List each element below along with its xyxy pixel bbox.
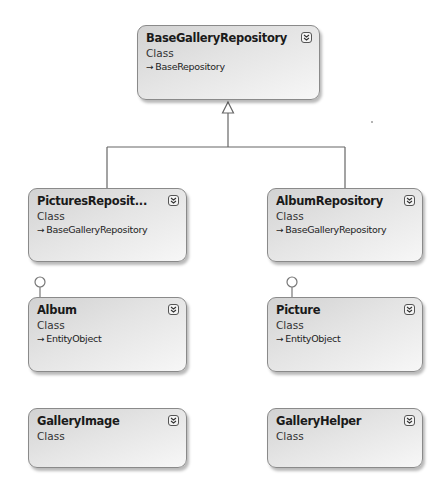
base-arrow-icon: → — [146, 62, 153, 72]
inheritance-connector — [107, 118, 345, 188]
expand-button[interactable] — [301, 32, 312, 43]
class-name: Picture — [276, 303, 414, 318]
class-name: Album — [37, 303, 178, 318]
class-base: →BaseGalleryRepository — [37, 223, 178, 237]
expand-button[interactable] — [168, 415, 179, 426]
class-box-gallery-image[interactable]: GalleryImage Class — [28, 408, 187, 468]
interface-lollipop-album — [35, 277, 45, 297]
class-base: →BaseGalleryRepository — [276, 223, 414, 237]
class-box-picture[interactable]: Picture Class →EntityObject — [267, 297, 423, 372]
class-name: GalleryImage — [37, 414, 178, 429]
expand-button[interactable] — [404, 304, 415, 315]
class-box-album-repository[interactable]: AlbumRepository Class →BaseGalleryReposi… — [267, 188, 423, 262]
expand-button[interactable] — [404, 415, 415, 426]
class-box-gallery-helper[interactable]: GalleryHelper Class — [267, 408, 423, 468]
class-kind: Class — [276, 429, 414, 443]
class-name: PicturesReposit... — [37, 194, 178, 209]
class-kind: Class — [37, 318, 178, 332]
inheritance-arrowhead-icon — [223, 102, 234, 113]
expand-button[interactable] — [168, 195, 179, 206]
class-base: →EntityObject — [276, 332, 414, 346]
class-base-name: EntityObject — [285, 333, 340, 344]
double-chevron-down-icon — [170, 306, 177, 313]
base-arrow-icon: → — [276, 225, 283, 235]
double-chevron-down-icon — [406, 197, 413, 204]
double-chevron-down-icon — [406, 417, 413, 424]
class-box-pictures-repository[interactable]: PicturesReposit... Class →BaseGalleryRep… — [28, 188, 187, 262]
class-kind: Class — [276, 209, 414, 223]
class-base: →EntityObject — [37, 332, 178, 346]
class-base-name: EntityObject — [46, 333, 101, 344]
double-chevron-down-icon — [170, 417, 177, 424]
expand-button[interactable] — [404, 195, 415, 206]
base-arrow-icon: → — [37, 225, 44, 235]
class-base-name: BaseGalleryRepository — [285, 224, 386, 235]
class-base-name: BaseGalleryRepository — [46, 224, 147, 235]
double-chevron-down-icon — [406, 306, 413, 313]
base-arrow-icon: → — [276, 334, 283, 344]
class-base-name: BaseRepository — [155, 61, 224, 72]
expand-button[interactable] — [168, 304, 179, 315]
class-kind: Class — [146, 46, 311, 60]
double-chevron-down-icon — [170, 197, 177, 204]
double-chevron-down-icon — [303, 34, 310, 41]
class-name: GalleryHelper — [276, 414, 414, 429]
class-kind: Class — [276, 318, 414, 332]
class-name: AlbumRepository — [276, 194, 414, 209]
class-kind: Class — [37, 209, 178, 223]
base-arrow-icon: → — [37, 334, 44, 344]
class-box-base-gallery-repository[interactable]: BaseGalleryRepository Class →BaseReposit… — [137, 25, 320, 100]
class-diagram-canvas: BaseGalleryRepository Class →BaseReposit… — [0, 0, 448, 490]
interface-lollipop-picture — [287, 277, 297, 297]
class-name: BaseGalleryRepository — [146, 31, 311, 46]
class-kind: Class — [37, 429, 178, 443]
class-box-album[interactable]: Album Class →EntityObject — [28, 297, 187, 372]
class-base: →BaseRepository — [146, 60, 311, 74]
